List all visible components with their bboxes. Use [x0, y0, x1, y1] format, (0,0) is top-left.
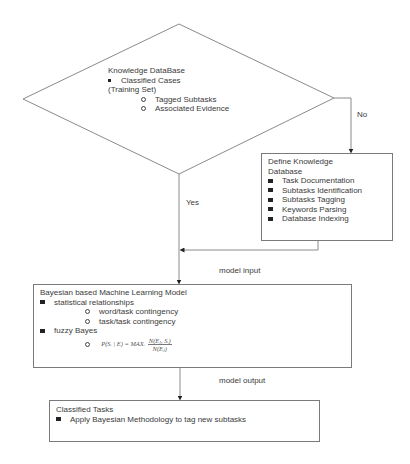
square-bullet-icon: [268, 217, 273, 221]
define-title: Database: [268, 167, 362, 177]
model-bullet: statistical relationships: [40, 298, 187, 308]
model-output-label: model output: [219, 376, 265, 385]
decision-subitem: Associated Evidence: [108, 104, 229, 114]
bayesian-model-box: Bayesian based Machine Learning Model st…: [33, 284, 352, 368]
define-title: Define Knowledge: [268, 157, 362, 167]
square-bullet-icon: [40, 329, 45, 333]
model-input-label: model input: [219, 266, 260, 275]
no-connector: [334, 98, 351, 151]
yes-label: Yes: [186, 198, 199, 207]
circle-bullet-icon: [85, 309, 90, 314]
define-item: Subtasks Identification: [268, 186, 362, 196]
define-item: Subtasks Tagging: [268, 195, 362, 205]
formula-row: P(Sᵢ | E) = MAXᵢ N(Eⱼ, Sᵢ) N(Eⱼ): [40, 337, 187, 352]
decision-bullet: Classified Cases: [108, 76, 229, 86]
square-bullet-icon: [268, 188, 273, 192]
model-title: Bayesian based Machine Learning Model: [40, 288, 187, 298]
square-bullet-icon: [40, 300, 45, 304]
circle-bullet-icon: [85, 319, 90, 324]
square-bullet-icon: [268, 198, 273, 202]
circle-bullet-icon: [85, 342, 90, 347]
define-item: Database Indexing: [268, 214, 362, 224]
no-label: No: [357, 110, 367, 119]
circle-bullet-icon: [141, 97, 146, 102]
classified-title: Classified Tasks: [56, 405, 246, 415]
model-subitem: word/task contingency: [40, 307, 187, 317]
model-bullet: fuzzy Bayes: [40, 326, 187, 336]
square-bullet-icon: [268, 179, 273, 183]
classified-item: Apply Bayesian Methodology to tag new su…: [56, 415, 246, 425]
circle-bullet-icon: [141, 106, 146, 111]
define-item: Keywords Parsing: [268, 205, 362, 215]
square-bullet-icon: [56, 417, 61, 421]
define-to-main-connector: [182, 241, 318, 250]
bayes-formula: P(Sᵢ | E) = MAXᵢ N(Eⱼ, Sᵢ) N(Eⱼ): [101, 337, 172, 352]
decision-text: Knowledge DataBase Classified Cases (Tra…: [108, 66, 229, 114]
square-bullet-icon: [268, 207, 273, 211]
square-bullet-icon: [108, 79, 111, 82]
decision-subtitle: (Training Set): [108, 85, 229, 95]
decision-title: Knowledge DataBase: [108, 66, 229, 76]
model-subitem: task/task contingency: [40, 317, 187, 327]
classified-tasks-box: Classified Tasks Apply Bayesian Methodol…: [49, 400, 320, 442]
decision-subitem: Tagged Subtasks: [108, 95, 229, 105]
define-knowledge-box: Define Knowledge Database Task Documenta…: [261, 153, 393, 241]
define-item: Task Documentation: [268, 176, 362, 186]
